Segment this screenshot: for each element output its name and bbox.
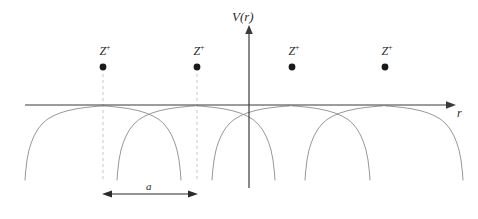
ion-dot-2 [194, 64, 201, 71]
ion-dot-1 [100, 64, 107, 71]
r-axis-label: r [457, 106, 462, 121]
potential-well-2-right [197, 106, 275, 180]
potential-well-1-right [103, 106, 181, 180]
potential-curves [25, 106, 463, 180]
ion-guide-lines [103, 74, 197, 182]
ion-label-1: Z+ [95, 44, 115, 59]
r-axis-arrowhead [446, 101, 456, 109]
v-axis-label: V(r) [232, 9, 254, 25]
ion-label-3: Z+ [284, 44, 304, 59]
ion-label-3-charge: + [295, 43, 300, 52]
periodic-potential-figure: V(r) r Z+ Z+ Z+ Z+ a [0, 0, 478, 219]
lattice-arrow-head-left [102, 190, 112, 197]
ion-dots [100, 64, 389, 71]
r-axis [25, 101, 456, 109]
potential-well-left-partial [25, 106, 103, 180]
potential-well-3-left [212, 106, 290, 180]
ion-label-2: Z+ [189, 44, 209, 59]
ion-dot-4 [382, 64, 389, 71]
v-axis-arrowhead [245, 25, 253, 34]
ion-label-2-charge: + [200, 43, 205, 52]
lattice-arrow-head-right [188, 190, 198, 197]
ion-dot-3 [289, 64, 296, 71]
ion-label-1-charge: + [106, 43, 111, 52]
potential-well-4-right [385, 106, 463, 180]
lattice-constant-label: a [146, 180, 152, 192]
potential-well-2-left [117, 106, 195, 180]
ion-label-4: Z+ [377, 44, 397, 59]
v-axis [245, 25, 253, 188]
ion-label-4-charge: + [388, 43, 393, 52]
potential-plot-svg [0, 0, 478, 219]
